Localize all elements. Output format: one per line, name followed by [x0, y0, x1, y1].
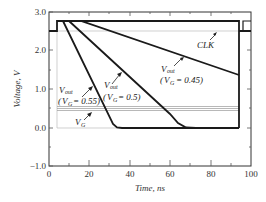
- annotation-clk: CLK: [197, 32, 217, 50]
- x-tick-label: 20: [85, 169, 95, 179]
- x-axis-title: Time, ns: [135, 183, 166, 193]
- svg-text:G: G: [170, 80, 175, 86]
- y-tick-label: −1.0: [30, 161, 47, 171]
- svg-text:= 0.55): = 0.55): [73, 96, 100, 106]
- svg-text:out: out: [110, 84, 118, 90]
- x-tick-label: 60: [166, 169, 176, 179]
- svg-text:out: out: [65, 89, 73, 95]
- vg-series: [57, 107, 239, 111]
- voltage-time-chart: 3.0 2.0 1.0 0.0 −1.0 0 20 40 60 80 100 T…: [0, 0, 266, 202]
- x-tick-label: 0: [47, 169, 52, 179]
- svg-text:out: out: [167, 68, 175, 74]
- y-tick-label: 0.0: [35, 123, 47, 133]
- y-tick-label: 1.0: [35, 84, 47, 94]
- y-axis-title: Voltage, V: [12, 69, 22, 107]
- annotation-vout-vg055: V out ( V G = 0.55): [58, 85, 100, 107]
- svg-text:CLK: CLK: [197, 40, 215, 50]
- plot-area-frame: [49, 12, 251, 166]
- svg-text:= 0.45): = 0.45): [176, 75, 203, 85]
- svg-text:= 0.5): = 0.5): [118, 92, 141, 102]
- y-tick-label: 2.0: [35, 45, 47, 55]
- clk-fall: [243, 21, 251, 31]
- clk-series: [49, 21, 251, 128]
- vout-vg055-series: [57, 21, 239, 128]
- y-tick-label: 3.0: [35, 7, 47, 17]
- x-tick-label: 100: [244, 169, 258, 179]
- x-axis-ticks: [69, 12, 231, 166]
- svg-text:G: G: [81, 122, 86, 128]
- annotation-vg: V G: [75, 112, 92, 128]
- x-tick-label: 80: [207, 169, 217, 179]
- x-tick-label: 40: [126, 169, 136, 179]
- y-axis-ticks: [49, 12, 251, 166]
- annotation-vout-vg05: V out ( V G = 0.5): [103, 72, 141, 103]
